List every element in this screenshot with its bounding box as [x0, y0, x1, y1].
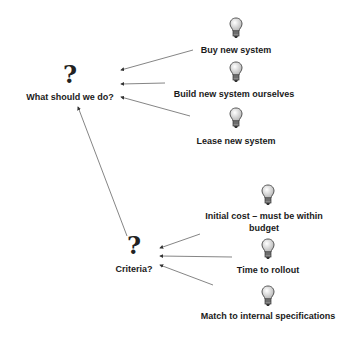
question-criteria-label: Criteria? [115, 263, 152, 275]
criteria-cost-line2: budget [249, 223, 279, 233]
lightbulb-icon [261, 184, 275, 206]
arrow-time-to-criteria [160, 256, 232, 257]
arrow-match-to-criteria [160, 265, 213, 285]
arrow-build-to-question [121, 83, 165, 84]
arrow-buy-to-question [121, 50, 193, 70]
arrow-criteria-to-question [78, 107, 127, 236]
connector-lines [0, 0, 354, 340]
option-build-label: Build new system ourselves [174, 88, 295, 100]
criteria-cost-line1: Initial cost – must be within [205, 211, 323, 221]
lightbulb-icon [261, 238, 275, 260]
question-mark-icon: ? [127, 234, 141, 258]
option-lease-label: Lease new system [196, 135, 275, 147]
lightbulb-icon [229, 61, 243, 83]
arrow-cost-to-criteria [160, 234, 200, 248]
criteria-match-label: Match to internal specifications [201, 310, 336, 322]
lightbulb-icon [229, 107, 243, 129]
criteria-time-label: Time to rollout [237, 264, 299, 276]
option-buy-label: Buy new system [201, 44, 272, 56]
question-mark-icon: ? [63, 63, 77, 87]
lightbulb-icon [261, 285, 275, 307]
question-what-label: What should we do? [26, 91, 114, 103]
lightbulb-icon [229, 17, 243, 39]
criteria-cost-label: Initial cost – must be within budget [205, 210, 323, 234]
